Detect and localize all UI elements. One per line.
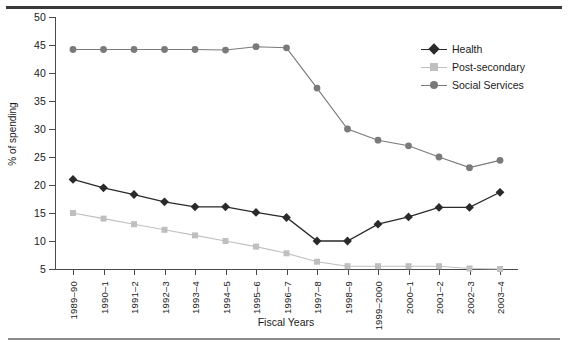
data-point-marker bbox=[344, 126, 351, 133]
data-point-marker bbox=[130, 190, 139, 199]
x-tick-mark bbox=[256, 269, 257, 275]
data-point-marker bbox=[405, 142, 412, 149]
data-point-marker bbox=[253, 244, 259, 250]
data-point-marker bbox=[375, 137, 382, 144]
x-tick-label: 1990–1 bbox=[98, 281, 109, 314]
data-point-marker bbox=[131, 221, 137, 227]
x-tick-mark bbox=[104, 269, 105, 275]
y-axis-title: % of spending bbox=[7, 102, 18, 165]
data-point-marker bbox=[284, 250, 290, 256]
data-point-marker bbox=[191, 202, 200, 211]
data-point-marker bbox=[131, 46, 138, 53]
legend-label: Post-secondary bbox=[452, 61, 525, 73]
data-point-marker bbox=[70, 210, 76, 216]
data-point-marker bbox=[162, 227, 168, 233]
data-point-marker bbox=[404, 213, 413, 222]
data-point-marker bbox=[100, 46, 107, 53]
x-tick-label: 2002–3 bbox=[464, 281, 475, 314]
x-tick-mark bbox=[73, 269, 74, 275]
x-tick-label: 2003–4 bbox=[495, 281, 506, 314]
y-tick-label: 20 bbox=[34, 179, 46, 191]
x-tick-mark bbox=[439, 269, 440, 275]
y-tick-label: 45 bbox=[34, 39, 46, 51]
data-point-marker bbox=[465, 203, 474, 212]
y-tick-label: 5 bbox=[40, 263, 46, 275]
data-point-marker bbox=[192, 232, 198, 238]
data-point-marker bbox=[314, 85, 321, 92]
data-point-marker bbox=[496, 188, 505, 197]
legend-swatch-diamond-icon bbox=[421, 43, 447, 55]
data-point-marker bbox=[101, 216, 107, 222]
x-tick-mark bbox=[378, 269, 379, 275]
data-point-marker bbox=[466, 164, 473, 171]
y-tick-label: 40 bbox=[34, 67, 46, 79]
data-point-marker bbox=[436, 154, 443, 161]
x-tick-mark bbox=[134, 269, 135, 275]
legend-item-post-secondary[interactable]: Post-secondary bbox=[421, 59, 525, 75]
figure-container: % of spending Fiscal Years 5101520253035… bbox=[0, 0, 568, 349]
data-point-marker bbox=[497, 266, 503, 272]
data-point-marker bbox=[497, 157, 504, 164]
x-tick-mark bbox=[165, 269, 166, 275]
top-divider-rule bbox=[6, 6, 562, 9]
y-tick-label: 15 bbox=[34, 207, 46, 219]
legend-item-social-services[interactable]: Social Services bbox=[421, 77, 525, 93]
data-point-marker bbox=[467, 265, 473, 271]
data-point-marker bbox=[343, 237, 352, 246]
y-tick-mark bbox=[49, 269, 55, 270]
x-tick-label: 1997–8 bbox=[312, 281, 323, 314]
legend-swatch-square-icon bbox=[421, 61, 447, 73]
data-point-marker bbox=[161, 46, 168, 53]
x-tick-label: 1989–90 bbox=[68, 281, 79, 319]
x-tick-mark bbox=[409, 269, 410, 275]
data-point-marker bbox=[221, 202, 230, 211]
x-tick-label: 1998–9 bbox=[342, 281, 353, 314]
x-tick-label: 1995–6 bbox=[251, 281, 262, 314]
x-tick-label: 1999–2000 bbox=[373, 281, 384, 330]
x-tick-label: 2000–1 bbox=[403, 281, 414, 314]
x-tick-label: 1993–4 bbox=[190, 281, 201, 314]
data-point-marker bbox=[252, 208, 261, 217]
bottom-divider-rule bbox=[8, 338, 560, 340]
data-point-marker bbox=[69, 175, 78, 184]
data-point-marker bbox=[70, 46, 77, 53]
data-point-marker bbox=[99, 183, 108, 192]
x-tick-label: 2001–2 bbox=[434, 281, 445, 314]
data-point-marker bbox=[160, 197, 169, 206]
x-tick-mark bbox=[287, 269, 288, 275]
data-point-marker bbox=[223, 238, 229, 244]
x-tick-mark bbox=[226, 269, 227, 275]
x-tick-label: 1996–7 bbox=[281, 281, 292, 314]
x-tick-label: 1994–5 bbox=[220, 281, 231, 314]
series-line bbox=[73, 179, 500, 241]
y-tick-label: 10 bbox=[34, 235, 46, 247]
x-tick-mark bbox=[195, 269, 196, 275]
y-tick-label: 30 bbox=[34, 123, 46, 135]
chart-legend: HealthPost-secondarySocial Services bbox=[421, 41, 525, 95]
legend-label: Health bbox=[452, 43, 482, 55]
data-point-marker bbox=[406, 263, 412, 269]
y-tick-label: 25 bbox=[34, 151, 46, 163]
data-point-marker bbox=[314, 259, 320, 265]
data-point-marker bbox=[345, 263, 351, 269]
data-point-marker bbox=[192, 46, 199, 53]
y-tick-label: 35 bbox=[34, 95, 46, 107]
legend-item-health[interactable]: Health bbox=[421, 41, 525, 57]
data-point-marker bbox=[375, 263, 381, 269]
legend-label: Social Services bbox=[452, 79, 524, 91]
data-point-marker bbox=[253, 43, 260, 50]
series-health bbox=[69, 175, 505, 245]
x-tick-label: 1992–3 bbox=[159, 281, 170, 314]
data-point-marker bbox=[436, 263, 442, 269]
data-point-marker bbox=[435, 203, 444, 212]
data-point-marker bbox=[222, 47, 229, 54]
x-tick-mark bbox=[317, 269, 318, 275]
x-axis-title: Fiscal Years bbox=[258, 316, 315, 328]
x-tick-mark bbox=[348, 269, 349, 275]
x-tick-label: 1991–2 bbox=[129, 281, 140, 314]
data-point-marker bbox=[374, 220, 383, 229]
data-point-marker bbox=[283, 44, 290, 51]
legend-swatch-circle-icon bbox=[421, 79, 447, 91]
y-tick-label: 50 bbox=[34, 11, 46, 23]
